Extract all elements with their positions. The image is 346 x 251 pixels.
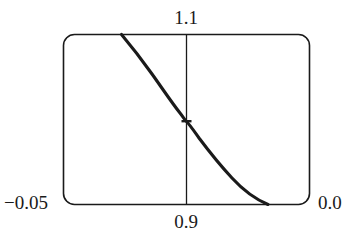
- axis-label-right: 0.0: [318, 193, 342, 212]
- axis-label-left: −0.05: [4, 193, 48, 212]
- axis-label-bottom: 0.9: [0, 212, 346, 231]
- axis-label-top: 1.1: [0, 8, 346, 27]
